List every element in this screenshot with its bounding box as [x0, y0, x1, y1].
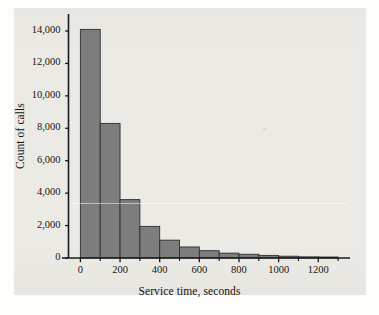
y-axis-tick-label: 2,000 [3, 219, 61, 230]
y-axis-tick-label: 10,000 [3, 89, 61, 100]
histogram-bar [80, 29, 100, 258]
histogram-bar [199, 251, 219, 258]
y-axis-tick-label: 4,000 [3, 186, 61, 197]
histogram-bar [100, 123, 120, 258]
y-axis-tick-label: 12,000 [3, 56, 61, 67]
y-axis-tick-label: 8,000 [3, 121, 61, 132]
y-axis-tick-label: 0 [3, 251, 61, 262]
y-axis-tick-label: 6,000 [3, 154, 61, 165]
bars-group [80, 29, 338, 258]
x-axis-title: Service time, seconds [0, 285, 379, 297]
y-axis-title: Count of calls [14, 76, 26, 196]
figure-page: 02,0004,0006,0008,00010,00012,00014,0000… [0, 0, 379, 315]
histogram-bar [140, 226, 160, 258]
histogram-bar [120, 200, 140, 258]
y-axis-tick-label: 14,000 [3, 24, 61, 35]
histogram-bar [180, 247, 200, 258]
x-axis-tick-label: 1200 [293, 264, 343, 275]
histogram-bar [160, 240, 180, 258]
